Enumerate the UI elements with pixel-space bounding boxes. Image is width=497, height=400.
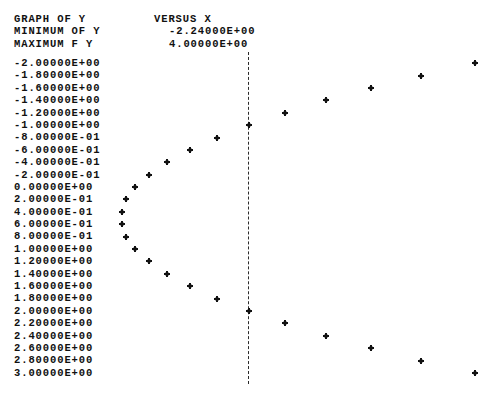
y-axis-tick-label: 1.40000E+00 <box>14 268 93 280</box>
plot-row: -4.00000E-01 <box>0 156 497 168</box>
plot-row: 6.00000E-01 <box>0 218 497 230</box>
plot-row: 1.00000E+00 <box>0 243 497 255</box>
header-row-minimum: MINIMUM OF Y -2.24000E+00 <box>14 25 484 37</box>
plot-row: -2.00000E+00 <box>0 57 497 69</box>
data-point <box>147 259 151 263</box>
y-axis-tick-label: -1.60000E+00 <box>14 82 100 94</box>
y-axis-tick-label: -1.00000E+00 <box>14 119 100 131</box>
y-axis-tick-label: 1.60000E+00 <box>14 280 93 292</box>
data-point <box>133 185 137 189</box>
data-point <box>188 284 192 288</box>
plot-row: 1.20000E+00 <box>0 255 497 267</box>
data-point <box>247 123 251 127</box>
data-point <box>283 111 287 115</box>
plot-row: 2.20000E+00 <box>0 317 497 329</box>
data-point <box>147 173 151 177</box>
y-axis-tick-label: 0.00000E+00 <box>14 181 93 193</box>
plot-row: -1.20000E+00 <box>0 107 497 119</box>
y-axis-tick-label: 2.00000E-01 <box>14 193 93 205</box>
plot-row: -8.00000E-01 <box>0 131 497 143</box>
data-point <box>247 309 251 313</box>
plot-row: 8.00000E-01 <box>0 230 497 242</box>
y-axis-tick-label: 3.00000E+00 <box>14 367 93 379</box>
plot-row: -1.00000E+00 <box>0 119 497 131</box>
y-axis-tick-label: 2.80000E+00 <box>14 354 93 366</box>
plot-row: 1.80000E+00 <box>0 292 497 304</box>
graph-header: GRAPH OF Y VERSUS X MINIMUM OF Y -2.2400… <box>14 13 484 50</box>
y-axis-tick-label: 1.20000E+00 <box>14 255 93 267</box>
y-axis-tick-label: 8.00000E-01 <box>14 230 93 242</box>
minimum-value: -2.24000E+00 <box>169 25 255 37</box>
y-axis-tick-label: -1.40000E+00 <box>14 94 100 106</box>
data-point <box>120 210 124 214</box>
y-axis-tick-label: -1.20000E+00 <box>14 107 100 119</box>
data-point <box>419 74 423 78</box>
y-axis-tick-label: 4.00000E-01 <box>14 206 93 218</box>
plot-row: 4.00000E-01 <box>0 206 497 218</box>
y-axis-tick-label: -2.00000E+00 <box>14 57 100 69</box>
plot-row: -1.40000E+00 <box>0 94 497 106</box>
plot-rows: -2.00000E+00-1.80000E+00-1.60000E+00-1.4… <box>0 57 497 379</box>
y-axis-tick-label: 1.00000E+00 <box>14 243 93 255</box>
plot-row: -1.60000E+00 <box>0 82 497 94</box>
header-row-title: GRAPH OF Y VERSUS X <box>14 13 484 25</box>
y-axis-tick-label: 2.40000E+00 <box>14 330 93 342</box>
y-axis-tick-label: -2.00000E-01 <box>14 169 100 181</box>
plot-row: 1.60000E+00 <box>0 280 497 292</box>
plot-row: 2.00000E-01 <box>0 193 497 205</box>
maximum-value: 4.00000E+00 <box>169 38 248 50</box>
graph-title-label: GRAPH OF Y <box>14 13 86 25</box>
plot-row: -6.00000E-01 <box>0 144 497 156</box>
y-axis-tick-label: 2.60000E+00 <box>14 342 93 354</box>
maximum-label: MAXIMUM F Y <box>14 38 93 50</box>
plot-row: 2.40000E+00 <box>0 330 497 342</box>
plot-row: 3.00000E+00 <box>0 367 497 379</box>
y-axis-tick-label: 2.20000E+00 <box>14 317 93 329</box>
graph-title-versus: VERSUS X <box>154 13 212 25</box>
data-point <box>283 321 287 325</box>
data-point <box>124 235 128 239</box>
plot-row: 2.80000E+00 <box>0 354 497 366</box>
printer-graph-screen: GRAPH OF Y VERSUS X MINIMUM OF Y -2.2400… <box>0 0 497 400</box>
plot-row: 2.00000E+00 <box>0 305 497 317</box>
plot-row: 0.00000E+00 <box>0 181 497 193</box>
y-axis-tick-label: 1.80000E+00 <box>14 292 93 304</box>
data-point <box>120 222 124 226</box>
data-point <box>324 98 328 102</box>
data-point <box>124 197 128 201</box>
y-axis-tick-label: -1.80000E+00 <box>14 69 100 81</box>
y-axis-tick-label: -4.00000E-01 <box>14 156 100 168</box>
data-point <box>215 136 219 140</box>
plot-row: 1.40000E+00 <box>0 268 497 280</box>
data-point <box>473 371 477 375</box>
data-point <box>133 247 137 251</box>
data-point <box>215 297 219 301</box>
data-point <box>473 61 477 65</box>
y-axis-tick-label: -6.00000E-01 <box>14 144 100 156</box>
y-axis-tick-label: 6.00000E-01 <box>14 218 93 230</box>
data-point <box>165 160 169 164</box>
data-point <box>369 346 373 350</box>
data-point <box>188 148 192 152</box>
plot-row: 2.60000E+00 <box>0 342 497 354</box>
y-axis-tick-label: 2.00000E+00 <box>14 305 93 317</box>
data-point <box>369 86 373 90</box>
plot-row: -1.80000E+00 <box>0 69 497 81</box>
y-axis-tick-label: -8.00000E-01 <box>14 131 100 143</box>
data-point <box>419 359 423 363</box>
data-point <box>324 334 328 338</box>
data-point <box>165 272 169 276</box>
minimum-label: MINIMUM OF Y <box>14 25 100 37</box>
header-row-maximum: MAXIMUM F Y 4.00000E+00 <box>14 38 484 50</box>
plot-row: -2.00000E-01 <box>0 169 497 181</box>
